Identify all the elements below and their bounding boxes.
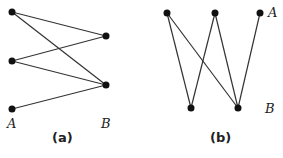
label-a-right: A bbox=[268, 5, 277, 20]
caption-a: (a) bbox=[52, 130, 73, 145]
graph-b bbox=[164, 10, 264, 112]
label-b-right: B bbox=[265, 101, 275, 116]
label-a-left: A bbox=[7, 116, 16, 131]
bipartite-graphs bbox=[0, 0, 283, 158]
label-b-left: B bbox=[101, 116, 111, 131]
graph-a bbox=[9, 9, 110, 113]
caption-b: (b) bbox=[210, 130, 231, 145]
